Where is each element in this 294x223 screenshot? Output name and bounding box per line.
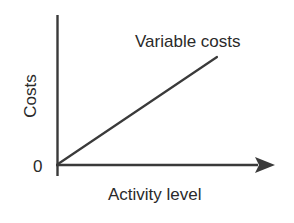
variable-costs-line [58, 57, 217, 164]
origin-label: 0 [33, 157, 42, 176]
x-axis-label: Activity level [108, 185, 202, 204]
variable-costs-diagram: Variable costs 0 Costs Activity level [0, 0, 294, 223]
y-axis-label: Costs [21, 74, 40, 117]
variable-costs-label: Variable costs [135, 32, 241, 51]
